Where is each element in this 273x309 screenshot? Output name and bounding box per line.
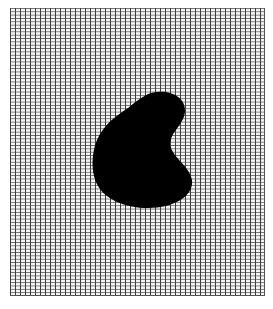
grid-background <box>10 8 265 296</box>
